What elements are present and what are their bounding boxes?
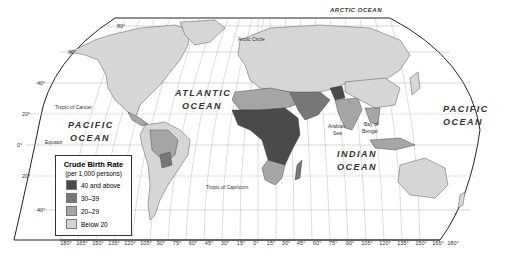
legend-label: 40 and above [81,182,120,189]
legend-item: 20–29 [66,206,131,216]
legend-swatch-40-plus [66,180,77,190]
longitude-axis: 180° 165° 150° 135° 120° 105° 90° 75° 60… [0,240,508,250]
longitude-label: 180° [60,240,71,246]
legend-label: Below 20 [81,221,108,228]
pacific-ocean-west-label-2: OCEAN [70,133,110,143]
longitude-label: 120° [379,240,390,246]
longitude-label: 135° [397,240,408,246]
longitude-label: 105° [361,240,372,246]
legend-item: Below 20 [66,219,131,229]
latitude-label-20s: 20° [22,173,30,179]
legend-swatch-30-39 [66,193,77,203]
legend-title: Crude Birth Rate [56,160,131,169]
legend-swatch-20-29 [66,206,77,216]
longitude-label: 45° [297,240,305,246]
legend-label: 30–39 [81,195,99,202]
latitude-label-60n: 60° [68,49,76,55]
legend-subtitle: (per 1,000 persons) [56,170,131,177]
latitude-label-20n: 20° [22,111,30,117]
bay-of-bengal-label-1: Bay of [364,121,378,127]
longitude-label: 75° [173,240,181,246]
longitude-label: 180° [447,240,458,246]
latitude-label-40n: 40° [37,80,45,86]
pacific-ocean-east-label-1: PACIFIC [443,104,489,114]
longitude-label: 15° [237,240,245,246]
longitude-label: 135° [108,240,119,246]
longitude-label: 30° [282,240,290,246]
longitude-label: 150° [415,240,426,246]
indian-ocean-label-2: OCEAN [337,162,377,172]
arctic-circle-label: Arctic Circle [238,36,265,42]
legend-item: 30–39 [66,193,131,203]
latitude-label-0: 0° [17,142,22,148]
legend-label: 20–29 [81,208,99,215]
latitude-label-40s: 40° [37,207,45,213]
equator-label: Equator [45,139,63,145]
pacific-ocean-west-label-1: PACIFIC [68,120,114,130]
legend-item: 40 and above [66,180,131,190]
longitude-label: 105° [140,240,151,246]
atlantic-ocean-label-1: ATLANTIC [175,88,231,98]
indian-ocean-label-1: INDIAN [337,149,377,159]
longitude-label: 60° [189,240,197,246]
bay-of-bengal-label-2: Bengal [362,128,378,134]
longitude-label: 0° [253,240,258,246]
legend: Crude Birth Rate (per 1,000 persons) 40 … [55,155,132,236]
pacific-ocean-east-label-2: OCEAN [443,117,483,127]
longitude-label: 150° [92,240,103,246]
longitude-label: 90° [157,240,165,246]
latitude-label-80n: 80° [117,23,125,29]
longitude-label: 75° [329,240,337,246]
longitude-label: 30° [221,240,229,246]
north-africa [232,88,295,110]
longitude-label: 120° [124,240,135,246]
tropic-of-cancer-label: Tropic of Cancer [55,104,92,110]
arabian-sea-label-2: Sea [333,130,342,136]
arabian-sea-label-1: Arabian [328,123,345,129]
arctic-ocean-label: ARCTIC OCEAN [330,7,382,13]
longitude-label: 90° [346,240,354,246]
atlantic-ocean-label-2: OCEAN [182,101,222,111]
legend-swatch-below-20 [66,219,77,229]
bolivia [160,152,172,168]
longitude-label: 165° [76,240,87,246]
tropic-of-capricorn-label: Tropic of Capricorn [206,184,248,190]
longitude-label: 15° [267,240,275,246]
longitude-label: 60° [313,240,321,246]
longitude-label: 45° [205,240,213,246]
longitude-label: 165° [432,240,443,246]
